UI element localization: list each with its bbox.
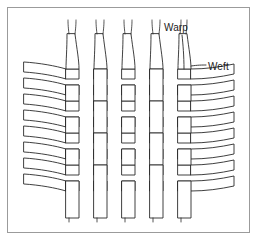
warp-thread [122,34,135,218]
warp-thread [178,34,191,218]
warp-thread [150,34,163,218]
weft-leader-line [191,65,206,66]
warp-label: Warp [164,22,188,33]
weft-label: Weft [208,61,229,72]
weave-illustration [0,0,261,247]
warp-thread [66,34,79,218]
diagram-page: Warp Weft [0,0,261,247]
warp-thread [94,34,107,218]
